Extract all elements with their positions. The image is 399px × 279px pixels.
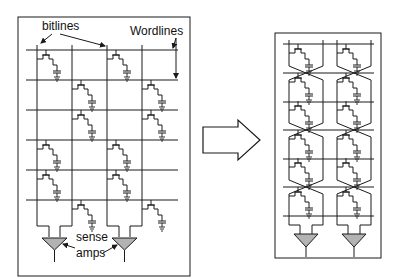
dram-diagram: bitlines Wordlines sense amps — [0, 0, 399, 279]
wordlines-label: Wordlines — [130, 24, 183, 38]
sense-label: sense — [76, 230, 108, 244]
amps-label: amps — [76, 246, 105, 260]
label-pointers — [41, 34, 176, 253]
transform-arrow-icon — [203, 120, 260, 160]
right-sense-amps — [294, 234, 366, 257]
sense-amp-icon — [342, 234, 366, 247]
sense-amp-icon — [294, 234, 318, 247]
bitlines-label: bitlines — [42, 19, 79, 33]
open-bitline-array: bitlines Wordlines sense amps — [18, 17, 190, 276]
folded-bitline-array — [275, 33, 381, 258]
right-wordlines — [283, 44, 374, 216]
sense-amp-icon — [112, 238, 137, 250]
left-bitlines — [37, 45, 142, 237]
